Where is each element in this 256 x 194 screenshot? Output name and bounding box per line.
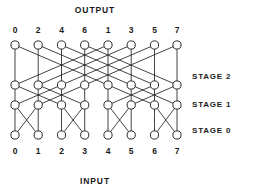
network-node: [11, 131, 19, 139]
network-node: [11, 81, 19, 89]
input-label-1: 1: [31, 146, 45, 156]
network-node: [34, 81, 42, 89]
stage-label-stage-2: STAGE 2: [192, 72, 231, 81]
network-node: [34, 41, 42, 49]
network-node: [104, 81, 112, 89]
network-node: [150, 131, 158, 139]
network-node: [11, 41, 19, 49]
network-node: [57, 101, 65, 109]
stage-label-stage-0: STAGE 0: [192, 126, 231, 135]
input-label-4: 4: [101, 146, 115, 156]
network-node: [34, 131, 42, 139]
network-node: [127, 41, 135, 49]
network-node: [127, 81, 135, 89]
network-node: [104, 131, 112, 139]
network-node: [81, 81, 89, 89]
network-node: [81, 101, 89, 109]
network-node: [150, 81, 158, 89]
network-node: [173, 81, 181, 89]
stage-label-stage-1: STAGE 1: [192, 100, 231, 109]
network-graph: [0, 0, 256, 194]
network-node: [104, 41, 112, 49]
node-group: [11, 41, 181, 139]
network-node: [81, 41, 89, 49]
input-label-5: 5: [124, 146, 138, 156]
input-label-6: 6: [148, 146, 162, 156]
network-node: [127, 131, 135, 139]
input-label-7: 7: [170, 146, 184, 156]
input-label-3: 3: [78, 146, 92, 156]
network-node: [104, 101, 112, 109]
network-node: [173, 101, 181, 109]
network-node: [57, 131, 65, 139]
network-node: [150, 41, 158, 49]
input-label-2: 2: [55, 146, 69, 156]
network-node: [11, 101, 19, 109]
network-node: [150, 101, 158, 109]
network-node: [173, 131, 181, 139]
input-caption: INPUT: [0, 176, 190, 186]
network-node: [127, 101, 135, 109]
butterfly-network-figure: OUTPUT 02461357 01234567 STAGE 2STAGE 1S…: [0, 0, 256, 194]
network-node: [34, 101, 42, 109]
network-node: [173, 41, 181, 49]
input-label-0: 0: [8, 146, 22, 156]
network-node: [57, 41, 65, 49]
network-node: [81, 131, 89, 139]
network-node: [57, 81, 65, 89]
